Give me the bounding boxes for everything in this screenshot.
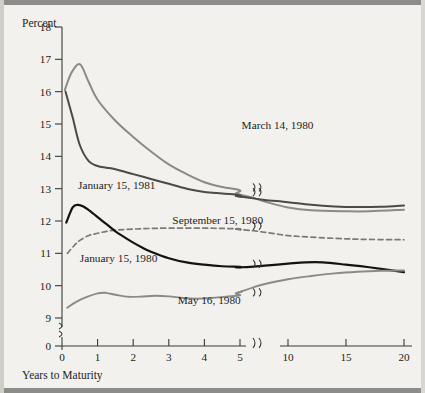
- yield-curve-chart: 09101112131415161718 012345101520 March …: [0, 5, 425, 388]
- x-tick-label-1: 1: [95, 351, 101, 363]
- y-tick-label-9: 9: [45, 312, 51, 324]
- x-tick-label-5: 5: [237, 351, 243, 363]
- series-label-2: September 15, 1980: [172, 214, 263, 226]
- series-label-3: January 15, 1980: [80, 252, 158, 264]
- y-tick-label-13: 13: [40, 183, 52, 195]
- chart-plot-area: 09101112131415161718 012345101520 March …: [0, 5, 425, 388]
- x-axis-ticks: 012345101520: [59, 339, 410, 363]
- series-label-1: January 15, 1981: [78, 179, 155, 191]
- series-label-4: May 16, 1980: [178, 294, 241, 306]
- y-tick-label-16: 16: [40, 86, 52, 98]
- y-axis-ticks: 09101112131415161718: [40, 21, 62, 352]
- x-tick-label-0: 0: [59, 351, 65, 363]
- x-tick-label-10: 10: [282, 351, 294, 363]
- figure-frame: 09101112131415161718 012345101520 March …: [0, 0, 425, 393]
- x-tick-label-20: 20: [398, 351, 410, 363]
- x-tick-label-15: 15: [340, 351, 352, 363]
- y-tick-label-10: 10: [40, 280, 52, 292]
- y-tick-label-11: 11: [40, 247, 51, 259]
- series-line-2: [67, 228, 241, 253]
- series-break-mark-4: [253, 288, 261, 296]
- x-tick-label-2: 2: [130, 351, 136, 363]
- series-line-4: [236, 270, 404, 293]
- y-axis-break-mark: [59, 323, 62, 337]
- axis-break-marks: [59, 323, 261, 348]
- y-tick-label-17: 17: [40, 53, 52, 65]
- y-tick-label-15: 15: [40, 118, 52, 130]
- y-axis-title: Percent: [22, 17, 57, 29]
- x-axis-break-mark: [253, 338, 261, 348]
- series-break-mark-1: [253, 188, 261, 196]
- x-tick-label-3: 3: [166, 351, 172, 363]
- series-line-0: [236, 194, 404, 212]
- y-tick-label-14: 14: [40, 150, 52, 162]
- series-line-2: [236, 229, 404, 240]
- x-tick-label-4: 4: [202, 351, 208, 363]
- frame-bottom-border: [0, 388, 425, 393]
- y-tick-label-12: 12: [40, 215, 51, 227]
- series-labels: March 14, 1980January 15, 1981September …: [78, 119, 314, 307]
- series-label-0: March 14, 1980: [242, 119, 314, 131]
- y-tick-label-0: 0: [45, 340, 51, 352]
- series-line-0: [65, 64, 242, 195]
- x-axis-title: Years to Maturity: [22, 369, 103, 382]
